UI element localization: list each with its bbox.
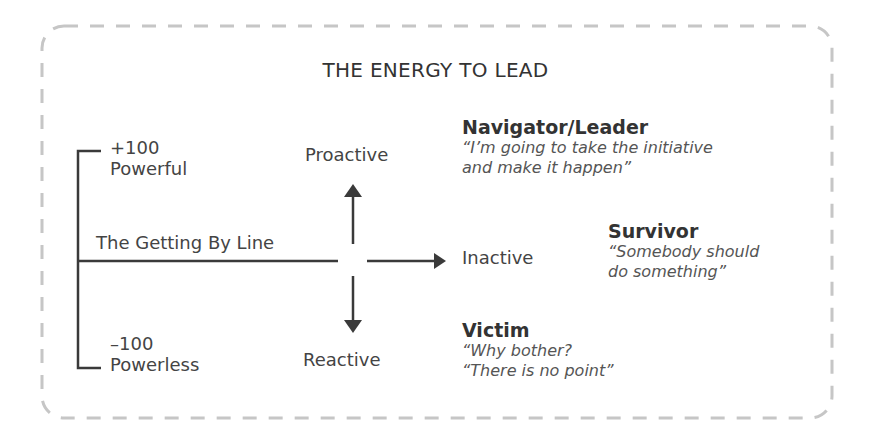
state-quote-line: “Somebody should	[608, 242, 759, 262]
arrow-right-icon	[367, 253, 446, 269]
state-navigator-leader: Navigator/Leader “I’m going to take the …	[462, 116, 713, 178]
scale-bottom-label: Powerless	[110, 354, 199, 375]
state-quote-line: “Why bother?	[462, 341, 614, 361]
arrow-down-icon	[344, 276, 362, 333]
state-quote-line: “There is no point”	[462, 361, 614, 381]
state-victim: Victim “Why bother? “There is no point”	[462, 319, 614, 381]
diagram-title: THE ENERGY TO LEAD	[0, 58, 871, 82]
scale-top-value: +100	[110, 137, 159, 158]
state-quote-line: do something”	[608, 262, 759, 282]
power-scale-bracket	[78, 151, 101, 368]
arrow-up-icon	[344, 184, 362, 244]
axis-label-reactive: Reactive	[303, 349, 380, 370]
axis-label-proactive: Proactive	[305, 144, 388, 165]
getting-by-line-label: The Getting By Line	[96, 232, 274, 253]
state-quote-line: “I’m going to take the initiative	[462, 138, 713, 158]
state-survivor: Survivor “Somebody should do something”	[608, 220, 759, 282]
axis-label-inactive: Inactive	[462, 247, 533, 268]
state-name: Navigator/Leader	[462, 116, 713, 138]
state-name: Victim	[462, 319, 614, 341]
scale-bottom-value: –100	[110, 333, 153, 354]
state-name: Survivor	[608, 220, 759, 242]
scale-top-label: Powerful	[110, 158, 187, 179]
state-quote-line: and make it happen”	[462, 158, 713, 178]
